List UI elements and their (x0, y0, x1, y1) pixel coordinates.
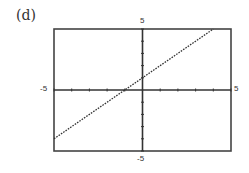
line-series (54, 29, 213, 139)
plot-area (0, 0, 249, 173)
